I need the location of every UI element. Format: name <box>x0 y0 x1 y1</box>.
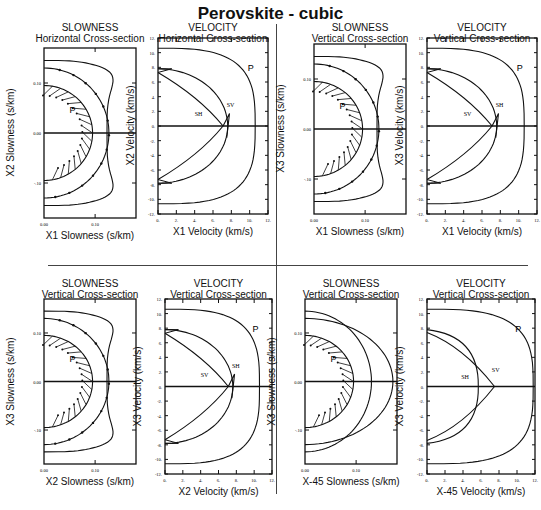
svg-text:SH: SH <box>461 374 469 380</box>
svg-text:SH: SH <box>195 111 203 117</box>
svg-text:10.: 10. <box>418 312 424 317</box>
svg-text:0.: 0. <box>152 124 155 129</box>
svg-text:-4.: -4. <box>157 414 162 419</box>
svg-text:0.10: 0.10 <box>294 331 303 336</box>
svg-text:P: P <box>515 324 521 334</box>
svg-text:SH: SH <box>232 363 240 369</box>
svg-text:6.: 6. <box>211 218 214 223</box>
svg-text:2.: 2. <box>175 218 178 223</box>
plot-area: 0.000.100.100.00-.10P <box>275 294 407 479</box>
svg-text:12.: 12. <box>269 478 275 483</box>
svg-text:P: P <box>340 101 346 111</box>
svg-text:-4.: -4. <box>150 153 155 158</box>
svg-text:12.: 12. <box>149 36 155 41</box>
svg-text:0.10: 0.10 <box>33 331 42 336</box>
svg-text:12.: 12. <box>418 297 424 302</box>
svg-text:4.: 4. <box>159 355 162 360</box>
svg-text:12.: 12. <box>156 297 162 302</box>
svg-text:6.: 6. <box>421 341 424 346</box>
svg-text:-8.: -8. <box>157 443 162 448</box>
svg-text:12.: 12. <box>534 218 540 223</box>
svg-text:6.: 6. <box>217 478 220 483</box>
svg-text:6.: 6. <box>421 80 424 85</box>
svg-text:4.: 4. <box>199 478 202 483</box>
svg-text:0.: 0. <box>425 478 428 483</box>
svg-text:8.: 8. <box>499 218 502 223</box>
svg-text:-8.: -8. <box>150 183 155 188</box>
svg-text:0.: 0. <box>156 218 159 223</box>
svg-text:-2.: -2. <box>419 139 424 144</box>
svg-text:10.: 10. <box>149 51 155 56</box>
svg-text:-6.: -6. <box>419 168 424 173</box>
svg-text:12.: 12. <box>418 36 424 41</box>
svg-text:-8.: -8. <box>419 443 424 448</box>
svg-text:SV: SV <box>464 111 472 117</box>
svg-text:0.: 0. <box>163 478 166 483</box>
svg-text:10.: 10. <box>514 478 520 483</box>
svg-text:-10.: -10. <box>148 197 155 202</box>
plot-area: 0.2.4.6.8.10.12.12.10.8.6.4.2.0.-2.-4.-6… <box>135 294 282 489</box>
svg-text:P: P <box>70 105 76 115</box>
plot-area: 0.2.4.6.8.10.12.12.10.8.6.4.2.0.-2.-4.-6… <box>397 33 541 229</box>
svg-text:0.00: 0.00 <box>33 131 42 136</box>
svg-text:0.10: 0.10 <box>91 468 100 473</box>
svg-text:0.00: 0.00 <box>294 380 303 385</box>
svg-text:6.: 6. <box>152 80 155 85</box>
plot-area: 0.2.4.6.8.10.12.12.10.8.6.4.2.0.-2.-4.-6… <box>128 33 278 229</box>
svg-text:8.: 8. <box>235 478 238 483</box>
svg-text:8.: 8. <box>421 326 424 331</box>
svg-text:-2.: -2. <box>157 399 162 404</box>
svg-text:8.: 8. <box>159 326 162 331</box>
svg-text:-6.: -6. <box>150 168 155 173</box>
svg-text:0.10: 0.10 <box>33 81 42 86</box>
svg-text:-6.: -6. <box>157 428 162 433</box>
svg-text:8.: 8. <box>152 65 155 70</box>
svg-text:-4.: -4. <box>419 153 424 158</box>
horizontal-divider <box>48 265 528 266</box>
svg-text:0.10: 0.10 <box>91 222 100 227</box>
svg-text:-.10: -.10 <box>34 428 42 433</box>
svg-text:-.10: -.10 <box>34 181 42 186</box>
svg-text:4.: 4. <box>193 218 196 223</box>
svg-text:0.: 0. <box>159 385 162 390</box>
svg-text:2.: 2. <box>443 478 446 483</box>
svg-text:0.00: 0.00 <box>33 380 42 385</box>
svg-text:6.: 6. <box>480 218 483 223</box>
svg-text:4.: 4. <box>421 95 424 100</box>
svg-text:8.: 8. <box>497 478 500 483</box>
svg-text:P: P <box>248 63 254 73</box>
svg-text:-12.: -12. <box>148 212 155 217</box>
plot-area: 0.000.100.100.00-.10P <box>14 294 146 479</box>
svg-text:-8.: -8. <box>419 183 424 188</box>
svg-text:-10.: -10. <box>417 197 424 202</box>
svg-text:4.: 4. <box>152 95 155 100</box>
svg-text:10.: 10. <box>418 51 424 56</box>
panel-title-main: VELOCITY <box>401 278 541 289</box>
svg-text:-12.: -12. <box>417 472 424 477</box>
svg-text:0.00: 0.00 <box>310 218 319 223</box>
svg-text:-.10: -.10 <box>304 177 312 182</box>
svg-text:10.: 10. <box>251 478 257 483</box>
svg-text:10.: 10. <box>156 312 162 317</box>
svg-text:2.: 2. <box>421 109 424 114</box>
svg-text:2.: 2. <box>181 478 184 483</box>
svg-text:0.10: 0.10 <box>361 218 370 223</box>
svg-text:-4.: -4. <box>419 414 424 419</box>
svg-text:2.: 2. <box>159 370 162 375</box>
svg-text:6.: 6. <box>159 341 162 346</box>
svg-text:4.: 4. <box>462 218 465 223</box>
svg-text:2.: 2. <box>444 218 447 223</box>
svg-text:0.00: 0.00 <box>303 127 312 132</box>
plot-area: 0.2.4.6.8.10.12.12.10.8.6.4.2.0.-2.-4.-6… <box>397 294 541 489</box>
svg-text:4.: 4. <box>461 478 464 483</box>
svg-text:SV: SV <box>201 372 209 378</box>
svg-text:12.: 12. <box>265 218 271 223</box>
svg-text:-6.: -6. <box>419 428 424 433</box>
svg-text:0.10: 0.10 <box>352 468 361 473</box>
svg-text:SV: SV <box>492 367 500 373</box>
svg-text:SH: SH <box>496 102 504 108</box>
svg-text:-10.: -10. <box>417 457 424 462</box>
svg-text:10.: 10. <box>516 218 522 223</box>
svg-text:0.: 0. <box>421 124 424 129</box>
svg-text:0.00: 0.00 <box>40 222 49 227</box>
